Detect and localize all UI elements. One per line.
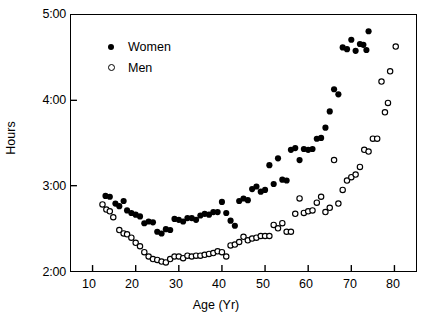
- data-point: [215, 209, 221, 215]
- open-circle-icon: [103, 64, 119, 71]
- data-point: [340, 187, 345, 192]
- data-point: [232, 223, 238, 229]
- legend-item-women: Women: [103, 36, 213, 57]
- data-point: [107, 209, 112, 214]
- data-point: [327, 205, 332, 210]
- data-point: [393, 44, 398, 49]
- data-point: [293, 211, 298, 216]
- y-axis-tick-labels: 5:00 4:00 3:00 2:00: [22, 0, 66, 324]
- data-point: [379, 79, 384, 84]
- data-point: [353, 172, 358, 177]
- data-point: [327, 108, 333, 114]
- data-point: [363, 47, 369, 53]
- data-point: [111, 215, 116, 220]
- data-point: [121, 198, 127, 204]
- data-point: [116, 203, 122, 209]
- data-point: [107, 194, 113, 200]
- data-point: [275, 155, 281, 161]
- data-point: [365, 28, 371, 34]
- data-point: [314, 200, 319, 205]
- y-tick-label-5: 5:00: [42, 7, 66, 21]
- data-point: [275, 226, 280, 231]
- data-point: [167, 227, 173, 233]
- data-point: [253, 183, 259, 189]
- data-point: [137, 213, 143, 219]
- data-point: [318, 135, 324, 141]
- data-point: [100, 202, 105, 207]
- data-point: [137, 244, 142, 249]
- data-point: [227, 218, 233, 224]
- data-point: [375, 136, 380, 141]
- scatter-plot-figure: 5:00 4:00 3:00 2:00 Hours Women Men 10 2…: [0, 0, 432, 324]
- data-point: [292, 145, 298, 151]
- data-point: [360, 42, 366, 48]
- data-point: [266, 162, 272, 168]
- data-point: [271, 181, 277, 187]
- data-point: [280, 221, 285, 226]
- filled-circle-icon: [103, 44, 119, 50]
- data-point: [219, 250, 224, 255]
- x-tick-label-50: 50: [256, 277, 270, 291]
- data-point: [142, 250, 147, 255]
- x-axis-tick-labels: 10 20 30 40 50 60 70 80: [0, 277, 432, 295]
- data-point: [267, 233, 272, 238]
- data-point: [262, 187, 268, 193]
- data-point: [322, 125, 328, 131]
- data-point: [219, 199, 225, 205]
- x-tick-label-70: 70: [343, 277, 357, 291]
- data-point: [129, 235, 134, 240]
- data-point: [318, 194, 323, 199]
- data-point: [357, 164, 362, 169]
- y-tick-label-4: 4:00: [42, 93, 66, 107]
- data-point: [335, 91, 341, 97]
- data-point: [237, 239, 242, 244]
- data-point: [309, 146, 315, 152]
- legend-label-men: Men: [128, 61, 152, 75]
- data-point: [223, 210, 229, 216]
- y-axis-title: Hours: [4, 108, 18, 168]
- data-point: [387, 69, 392, 74]
- data-point: [353, 48, 359, 54]
- legend-item-men: Men: [103, 57, 213, 78]
- data-point: [344, 46, 350, 52]
- data-point: [245, 197, 251, 203]
- data-point: [385, 100, 390, 105]
- data-point: [348, 37, 354, 43]
- data-point: [366, 149, 371, 154]
- data-point: [288, 229, 293, 234]
- data-point: [224, 254, 229, 259]
- data-point: [284, 177, 290, 183]
- legend-label-women: Women: [128, 40, 171, 54]
- data-point: [323, 209, 328, 214]
- x-axis-title: Age (Yr): [0, 298, 432, 312]
- x-tick-label-10: 10: [82, 277, 96, 291]
- data-point: [297, 196, 302, 201]
- data-point: [331, 86, 337, 92]
- y-tick-label-3: 3:00: [42, 179, 66, 193]
- legend: Women Men: [103, 36, 213, 78]
- x-tick-label-20: 20: [125, 277, 139, 291]
- x-tick-label-40: 40: [212, 277, 226, 291]
- data-point: [150, 219, 156, 225]
- data-point: [296, 157, 302, 163]
- data-point: [310, 208, 315, 213]
- data-point: [331, 157, 336, 162]
- x-tick-label-80: 80: [386, 277, 400, 291]
- x-tick-label-60: 60: [299, 277, 313, 291]
- data-point: [382, 110, 387, 115]
- x-tick-label-30: 30: [169, 277, 183, 291]
- data-point: [336, 201, 341, 206]
